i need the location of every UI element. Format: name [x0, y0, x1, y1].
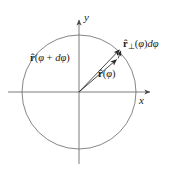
vector-label-r-hat-phi-plus-dphi: r̂(φ + dφ) [30, 53, 70, 64]
vector-label-r-hat-perp-phi-dphi: r̂⊥(φ)dφ [123, 39, 159, 51]
vector-label-r-hat-phi: r̂(φ) [98, 69, 115, 80]
vector-diagram-figure: y x r̂(φ + dφ) r̂(φ) r̂⊥(φ)dφ [0, 0, 176, 171]
diagram-canvas [0, 0, 176, 171]
y-axis-label: y [84, 12, 89, 23]
x-axis-label: x [139, 95, 144, 106]
